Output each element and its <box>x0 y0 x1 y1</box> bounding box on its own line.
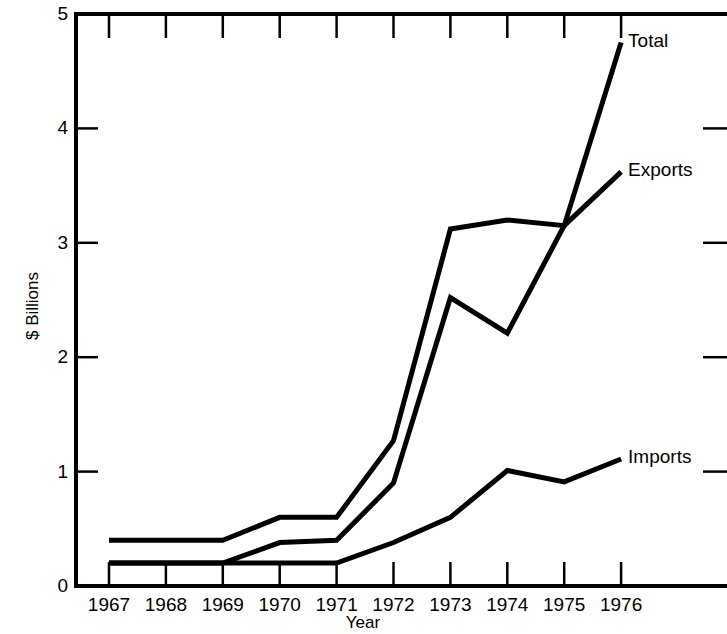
x-tick-label: 1969 <box>193 595 253 614</box>
series-label-imports: Imports <box>628 447 691 466</box>
y-tick-label: 3 <box>38 233 68 252</box>
y-axis-ticks <box>76 128 98 471</box>
series-line-exports <box>109 172 621 563</box>
chart-plot-area <box>0 0 727 634</box>
y-axis-title: $ Billions <box>23 251 43 361</box>
x-tick-label: 1975 <box>534 595 594 614</box>
x-tick-label: 1971 <box>307 595 367 614</box>
y-tick-label: 4 <box>38 118 68 137</box>
x-tick-label: 1974 <box>477 595 537 614</box>
series-label-exports: Exports <box>628 160 692 179</box>
series-line-total <box>109 43 621 541</box>
x-tick-label: 1973 <box>420 595 480 614</box>
y-tick-label: 0 <box>38 576 68 595</box>
x-axis-ticks <box>109 14 621 586</box>
axis-lines <box>76 14 727 586</box>
x-tick-label: 1976 <box>591 595 651 614</box>
x-tick-label: 1968 <box>136 595 196 614</box>
series-label-total: Total <box>628 31 668 50</box>
y-tick-label: 5 <box>38 4 68 23</box>
line-chart: 012345 196719681969197019711972197319741… <box>0 0 727 634</box>
x-tick-label: 1972 <box>364 595 424 614</box>
data-series-group <box>109 43 621 564</box>
x-tick-label: 1967 <box>79 595 139 614</box>
y-tick-label: 1 <box>38 462 68 481</box>
right-axis-ticks <box>703 128 727 471</box>
x-tick-label: 1970 <box>250 595 310 614</box>
x-axis-title: Year <box>303 613 423 633</box>
